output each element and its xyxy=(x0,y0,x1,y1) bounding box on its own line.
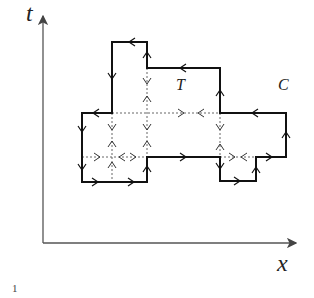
t-axis-label: t xyxy=(26,0,33,27)
page-number: 1 xyxy=(12,282,18,294)
dotted-arrows xyxy=(94,78,247,178)
contour-C-label: C xyxy=(278,76,289,94)
region-T-label: T xyxy=(176,76,185,94)
x-axis-label: x xyxy=(277,250,288,277)
contour-C xyxy=(82,42,286,182)
contour-diagram xyxy=(0,0,314,298)
